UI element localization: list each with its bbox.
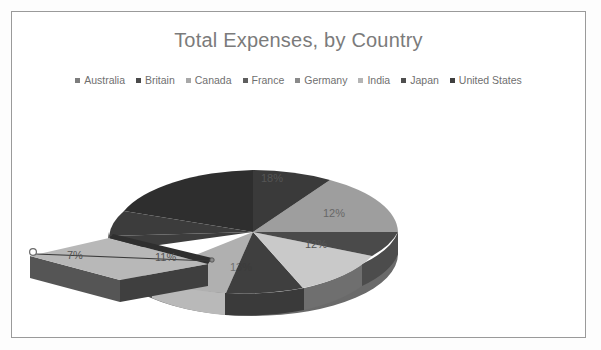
data-label-australia: 18%: [261, 172, 283, 184]
data-label-canada: 12%: [305, 238, 327, 250]
legend-item-japan[interactable]: Japan: [401, 74, 439, 86]
legend-item-germany[interactable]: Germany: [295, 74, 347, 86]
selection-handle-icon[interactable]: [210, 258, 214, 262]
legend-item-france[interactable]: France: [243, 74, 285, 86]
chart-frame[interactable]: Total Expenses, by Country Australia Bri…: [11, 11, 586, 338]
legend-item-australia[interactable]: Australia: [75, 74, 125, 86]
legend-marker-icon: [401, 78, 406, 83]
legend-label: Britain: [145, 74, 175, 86]
legend-label: Germany: [304, 74, 347, 86]
legend-label: Japan: [410, 74, 439, 86]
data-label-france: 11%: [155, 251, 176, 263]
data-label-obscured-center: 13%: [230, 261, 252, 273]
legend-marker-icon: [358, 78, 363, 83]
legend-marker-icon: [243, 78, 248, 83]
pie-chart-svg[interactable]: 18% 12% 12% 11% 13% 7%: [12, 104, 585, 337]
pie-chart-plot[interactable]: 18% 12% 12% 11% 13% 7%: [12, 104, 585, 337]
legend-item-canada[interactable]: Canada: [186, 74, 232, 86]
legend-marker-icon: [75, 78, 80, 83]
legend-marker-icon: [186, 78, 191, 83]
legend-item-united-states[interactable]: United States: [450, 74, 522, 86]
legend-marker-icon: [450, 78, 455, 83]
legend-label: Australia: [84, 74, 125, 86]
chart-legend[interactable]: Australia Britain Canada France Germany …: [12, 74, 585, 86]
legend-item-india[interactable]: India: [358, 74, 390, 86]
data-label-obscured-right: 12%: [323, 207, 345, 219]
legend-label: United States: [459, 74, 522, 86]
screenshot-page: Total Expenses, by Country Australia Bri…: [0, 0, 601, 350]
legend-label: India: [367, 74, 390, 86]
legend-marker-icon: [136, 78, 141, 83]
legend-label: France: [252, 74, 285, 86]
legend-label: Canada: [195, 74, 232, 86]
selection-handle-icon[interactable]: [30, 249, 37, 256]
chart-title: Total Expenses, by Country: [12, 29, 585, 52]
data-label-germany-exploded: 7%: [67, 249, 83, 261]
legend-marker-icon: [295, 78, 300, 83]
legend-item-britain[interactable]: Britain: [136, 74, 175, 86]
